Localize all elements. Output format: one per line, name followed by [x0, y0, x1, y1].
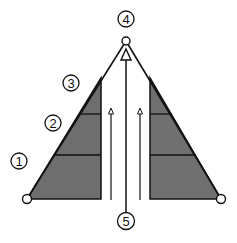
label-2-text: 2 — [49, 116, 56, 131]
apex-node — [122, 37, 130, 45]
label-1-text: 1 — [15, 154, 22, 169]
label-3: 3 — [63, 75, 79, 91]
label-5-text: 5 — [122, 214, 129, 229]
right-inner-arrow-head-icon — [138, 108, 143, 114]
central-arrow-head-icon — [121, 49, 131, 60]
label-1: 1 — [11, 153, 27, 169]
label-2: 2 — [45, 115, 61, 131]
triangle-diagram: 1 2 3 4 5 — [0, 0, 237, 243]
label-5: 5 — [118, 213, 135, 230]
label-3-text: 3 — [67, 76, 74, 91]
left-base-node — [23, 195, 32, 204]
label-4: 4 — [118, 11, 134, 27]
left-inner-arrow-head-icon — [109, 108, 114, 114]
right-base-node — [217, 195, 226, 204]
label-4-text: 4 — [122, 12, 129, 27]
